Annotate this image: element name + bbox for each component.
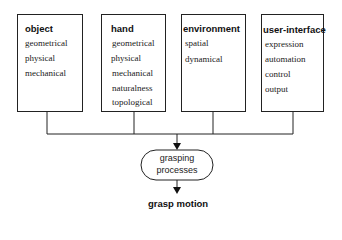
hand-item: geometrical xyxy=(112,38,154,48)
grasp-motion-label: grasp motion xyxy=(148,198,208,209)
arrow-down-icon xyxy=(173,143,181,150)
hand-item: naturalness xyxy=(112,83,153,93)
object-item: physical xyxy=(25,53,55,63)
hand-item: physical xyxy=(111,53,141,63)
object-item: mechanical xyxy=(25,68,66,78)
environment-item: dynamical xyxy=(185,54,223,64)
process-label-line2: processes xyxy=(141,165,213,176)
hand-item: topological xyxy=(112,97,153,107)
user-interface-item: automation xyxy=(265,54,306,64)
hand-item: mechanical xyxy=(112,68,153,78)
process-label-line1: grasping xyxy=(141,153,213,164)
object-item: geometrical xyxy=(25,38,67,48)
environment-title: environment xyxy=(183,23,240,34)
user-interface-item: control xyxy=(265,69,291,79)
user-interface-title: user-interface xyxy=(263,24,326,35)
object-title: object xyxy=(25,23,53,34)
user-interface-item: expression xyxy=(265,39,304,49)
hand-title: hand xyxy=(111,23,134,34)
user-interface-item: output xyxy=(265,84,288,94)
arrow-down-icon xyxy=(173,187,181,194)
environment-item: spatial xyxy=(185,38,209,48)
